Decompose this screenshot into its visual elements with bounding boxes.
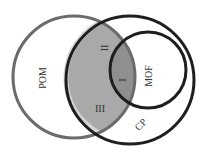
cp-label: CP <box>132 116 149 133</box>
pom-label: POM <box>37 67 48 89</box>
region-iii-label: III <box>95 103 105 114</box>
mof-label: MOF <box>143 65 154 87</box>
region-ii-label: II <box>99 45 110 52</box>
region-i-label: I <box>117 78 128 81</box>
venn-diagram: POM MOF CP I II III <box>0 0 202 152</box>
